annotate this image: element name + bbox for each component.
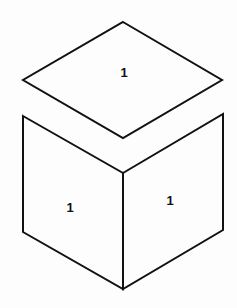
top-face: 1: [23, 22, 222, 138]
top-face-outline: [23, 22, 222, 138]
top-face-label: 1: [120, 65, 127, 80]
left-face: 1: [23, 116, 123, 289]
right-face-label: 1: [166, 193, 173, 208]
right-face: 1: [123, 114, 223, 289]
cube-diagram: 1 1 1: [0, 0, 237, 308]
left-face-label: 1: [66, 200, 73, 215]
